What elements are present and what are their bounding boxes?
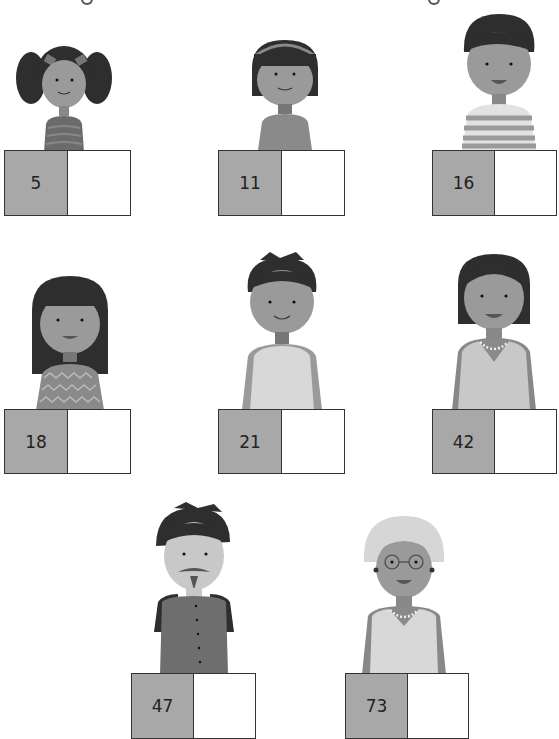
age-value: 21 — [219, 410, 282, 473]
answer-cell[interactable] — [282, 151, 344, 215]
answer-cell[interactable] — [68, 151, 130, 215]
text-fragment — [81, 0, 93, 5]
answer-cell[interactable] — [495, 410, 556, 473]
age-value: 18 — [5, 410, 68, 473]
text-fragment — [428, 0, 440, 5]
person-girl-pigtails-illustration — [14, 40, 114, 152]
age-box-grandmother-glasses: 73 — [345, 673, 469, 739]
age-box-boy-striped: 16 — [432, 150, 557, 216]
age-value: 11 — [219, 151, 282, 215]
answer-cell[interactable] — [68, 410, 130, 473]
age-box-girl-headband: 11 — [218, 150, 345, 216]
person-man-goatee-illustration — [154, 502, 234, 674]
age-value: 47 — [132, 674, 194, 738]
age-value: 16 — [433, 151, 495, 215]
answer-cell[interactable] — [194, 674, 255, 738]
person-girl-long-hair-illustration — [30, 274, 110, 410]
person-boy-striped-illustration — [454, 10, 544, 150]
answer-cell[interactable] — [282, 410, 344, 473]
age-box-woman-necklace: 42 — [432, 409, 557, 474]
person-woman-necklace-illustration — [452, 252, 536, 410]
age-box-man-goatee: 47 — [131, 673, 256, 739]
person-grandmother-glasses-illustration — [362, 512, 446, 674]
person-young-man-illustration — [240, 252, 324, 410]
person-girl-headband-illustration — [240, 36, 330, 150]
age-box-young-man: 21 — [218, 409, 345, 474]
age-value: 73 — [346, 674, 408, 738]
age-value: 42 — [433, 410, 495, 473]
age-box-girl-pigtails: 5 — [4, 150, 131, 216]
answer-cell[interactable] — [408, 674, 468, 738]
answer-cell[interactable] — [495, 151, 556, 215]
age-box-girl-long-hair: 18 — [4, 409, 131, 474]
age-value: 5 — [5, 151, 68, 215]
